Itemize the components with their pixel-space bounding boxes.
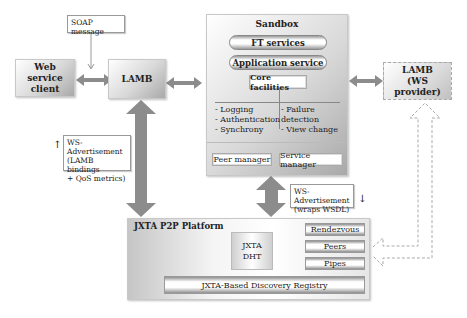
lamb-provider-box: LAMB (WS provider) [383, 62, 452, 100]
lamb-label: LAMB [122, 74, 153, 85]
jxta-dht-line2: DHT [243, 251, 262, 262]
client-lamb-arrow [76, 74, 112, 86]
web-service-client-label: Web service client [16, 62, 74, 95]
web-service-client-box: Web service client [15, 59, 75, 97]
sandbox-title: Sandbox [207, 17, 347, 31]
lamb-provider-title: LAMB [402, 65, 433, 76]
sandbox-jxta-arrow [256, 176, 286, 217]
view-change-item: - View change [281, 125, 347, 135]
authentication-item: - Authentication [215, 115, 281, 125]
logging-item: - Logging [215, 105, 281, 115]
core-facilities-box: Core facilities [249, 75, 307, 89]
core-right-list: - Failure detection - View change [281, 105, 347, 135]
synchrony-item: - Synchrony [215, 125, 281, 135]
discovery-registry-bar: JXTA-Based Discovery Registry [164, 276, 365, 294]
application-service-pill: Application service [229, 55, 327, 70]
soap-message-callout: SOAP message [67, 15, 125, 33]
sandbox-provider-arrow [349, 75, 383, 87]
up-arrow-icon: ↑ [53, 139, 61, 150]
ws-ad-right-line1: WS-Advertisement [294, 187, 350, 205]
dashed-provider-arrow [373, 103, 440, 266]
down-arrow-icon: ↓ [358, 193, 366, 204]
lamb-box: LAMB [108, 59, 166, 99]
ws-ad-left-line2: (LAMB bindings [67, 156, 127, 174]
lamb-sandbox-arrow [166, 77, 202, 89]
ws-ad-right-line2: (wraps WSDL) [294, 205, 350, 214]
jxta-platform-title: JXTA P2P Platform [134, 221, 224, 231]
pipes-bar: Pipes [305, 257, 365, 270]
jxta-platform-box: JXTA P2P Platform JXTA DHT Rendezvous Pe… [127, 218, 370, 300]
core-bracket [215, 102, 340, 103]
peers-bar: Peers [305, 240, 365, 253]
rendezvous-bar: Rendezvous [305, 223, 365, 236]
ft-services-pill: FT services [229, 35, 327, 50]
service-manager-box: Service manager [279, 153, 343, 166]
failure-detection-item: - Failure detection [281, 105, 347, 125]
ws-advertisement-left-callout: WS-Advertisement (LAMB bindings + QoS me… [63, 135, 131, 171]
jxta-dht-line1: JXTA [242, 240, 262, 251]
sandbox-box: Sandbox FT services Application service … [206, 14, 348, 176]
peer-manager-box: Peer manager [212, 153, 272, 166]
core-left-list: - Logging - Authentication - Synchrony [215, 105, 281, 135]
lamb-provider-subtitle: (WS provider) [384, 76, 451, 98]
ws-advertisement-right-callout: WS-Advertisement (wraps WSDL) [290, 184, 354, 208]
ws-ad-left-line3: + QoS metrics) [67, 174, 127, 183]
soap-message-label: SOAP message [71, 18, 104, 36]
ws-ad-left-line1: WS-Advertisement [67, 138, 127, 156]
jxta-dht-box: JXTA DHT [231, 232, 273, 270]
